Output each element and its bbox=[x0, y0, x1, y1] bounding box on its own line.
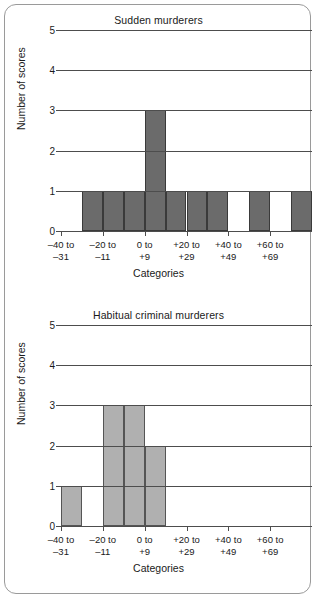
bar bbox=[103, 405, 124, 526]
bar bbox=[124, 405, 145, 526]
y-tick-label-1: 1 bbox=[49, 185, 55, 196]
plot-area-top: 012345 –40 to–31–20 to–110 to+9+20 to+29… bbox=[61, 30, 312, 231]
y-tick-mark-5 bbox=[56, 30, 61, 31]
x-axis-label-bottom: Categories bbox=[5, 562, 312, 574]
gridline-5 bbox=[61, 30, 312, 31]
x-tick-label: +60 to+69 bbox=[244, 534, 296, 557]
x-axis-tickmarks-top bbox=[61, 231, 312, 236]
y-axis-label-bottom: Number of scores bbox=[15, 342, 27, 425]
y-tick-mark-5 bbox=[56, 325, 61, 326]
y-axis-label-top: Number of scores bbox=[15, 47, 27, 130]
x-tick-mark bbox=[270, 526, 271, 531]
gridline-2 bbox=[61, 446, 312, 447]
x-tick-mark bbox=[270, 231, 271, 236]
gridline-1 bbox=[61, 191, 312, 192]
y-tick-label-5: 5 bbox=[49, 320, 55, 331]
bar bbox=[82, 191, 103, 231]
chart-panel-habitual-criminal-murderers: Habitual criminal murderers Number of sc… bbox=[5, 300, 312, 595]
y-tick-mark-3 bbox=[56, 405, 61, 406]
y-tick-mark-1 bbox=[56, 486, 61, 487]
y-tick-label-2: 2 bbox=[49, 145, 55, 156]
bar bbox=[207, 191, 228, 231]
y-tick-mark-4 bbox=[56, 70, 61, 71]
bar bbox=[249, 191, 270, 231]
x-tick-mark bbox=[228, 231, 229, 236]
y-tick-mark-1 bbox=[56, 191, 61, 192]
x-tick-label-line1: +60 to bbox=[244, 534, 296, 546]
x-tick-label-line2: +69 bbox=[244, 546, 296, 558]
x-axis-label-top: Categories bbox=[5, 267, 312, 279]
y-tick-label-4: 4 bbox=[49, 360, 55, 371]
x-tick-mark bbox=[145, 526, 146, 531]
x-tick-label-line1: +60 to bbox=[244, 239, 296, 251]
gridline-4 bbox=[61, 365, 312, 366]
y-tick-label-3: 3 bbox=[49, 400, 55, 411]
y-tick-label-1: 1 bbox=[49, 480, 55, 491]
x-tick-label-line2: +69 bbox=[244, 251, 296, 263]
y-tick-mark-3 bbox=[56, 110, 61, 111]
gridline-5 bbox=[61, 325, 312, 326]
y-tick-label-2: 2 bbox=[49, 440, 55, 451]
gridline-4 bbox=[61, 70, 312, 71]
figure-frame: Sudden murderers Number of scores 012345… bbox=[4, 4, 311, 594]
y-tick-mark-4 bbox=[56, 365, 61, 366]
bar bbox=[103, 191, 124, 231]
bar bbox=[61, 486, 82, 526]
x-tick-mark bbox=[187, 526, 188, 531]
x-tick-mark bbox=[103, 526, 104, 531]
bar bbox=[291, 191, 312, 231]
bar-group-bottom bbox=[61, 325, 312, 526]
bar bbox=[145, 110, 166, 231]
y-tick-label-0: 0 bbox=[49, 226, 55, 237]
y-tick-label-5: 5 bbox=[49, 25, 55, 36]
x-tick-mark bbox=[61, 526, 62, 531]
chart-panel-sudden-murderers: Sudden murderers Number of scores 012345… bbox=[5, 5, 312, 300]
x-tick-mark bbox=[61, 231, 62, 236]
plot-area-bottom: 012345 –40 to–31–20 to–110 to+9+20 to+29… bbox=[61, 325, 312, 526]
x-tick-mark bbox=[103, 231, 104, 236]
y-tick-mark-2 bbox=[56, 446, 61, 447]
gridline-2 bbox=[61, 151, 312, 152]
gridline-1 bbox=[61, 486, 312, 487]
x-tick-mark bbox=[228, 526, 229, 531]
x-tick-label: +60 to+69 bbox=[244, 239, 296, 262]
y-tick-mark-2 bbox=[56, 151, 61, 152]
x-tick-mark bbox=[187, 231, 188, 236]
bar bbox=[187, 191, 208, 231]
gridline-3 bbox=[61, 110, 312, 111]
y-tick-label-4: 4 bbox=[49, 65, 55, 76]
y-tick-label-0: 0 bbox=[49, 521, 55, 532]
bar-group-top bbox=[61, 30, 312, 231]
x-axis-tickmarks-bottom bbox=[61, 526, 312, 531]
bar bbox=[166, 191, 187, 231]
gridline-3 bbox=[61, 405, 312, 406]
x-tick-mark bbox=[145, 231, 146, 236]
y-tick-label-3: 3 bbox=[49, 105, 55, 116]
bar bbox=[124, 191, 145, 231]
